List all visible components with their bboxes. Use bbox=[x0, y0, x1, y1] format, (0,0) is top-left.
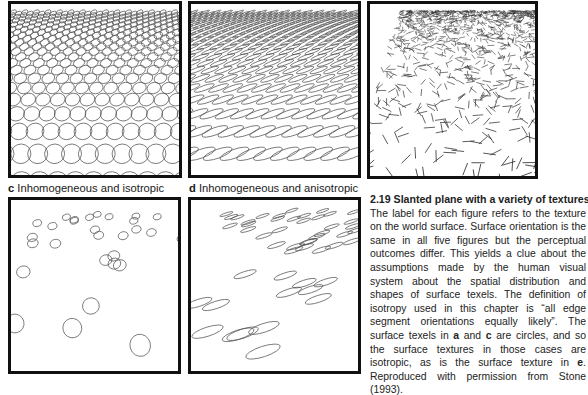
texture-line-segments-image bbox=[370, 4, 535, 176]
panel-d-label: d Inhomogeneous and anisotropic bbox=[189, 182, 358, 195]
panel-d-letter: d bbox=[189, 182, 196, 194]
texture-circles-image bbox=[11, 4, 179, 175]
caption-and: and bbox=[459, 330, 486, 341]
panel-d-inhomogeneous-anisotropic bbox=[188, 197, 361, 374]
panel-c-label-text: Inhomogeneous and isotropic bbox=[17, 182, 164, 194]
figure-number: 2.19 bbox=[370, 193, 391, 205]
figure-title: Slanted plane with a variety of textures bbox=[394, 193, 588, 205]
panel-c-label: c Inhomogeneous and isotropic bbox=[8, 182, 164, 195]
panel-a-homogeneous-circles bbox=[8, 1, 182, 178]
caption-body-1: The label for each figure refers to the … bbox=[370, 208, 586, 341]
caption-title: 2.19 Slanted plane with a variety of tex… bbox=[370, 193, 586, 207]
panel-d-label-text: Inhomogeneous and anisotropic bbox=[199, 182, 358, 194]
figure-caption: 2.19 Slanted plane with a variety of tex… bbox=[370, 193, 586, 395]
panel-c-letter: c bbox=[8, 182, 14, 194]
panel-e-line-segments bbox=[367, 1, 538, 179]
panel-b-homogeneous-ellipses bbox=[188, 1, 361, 178]
texture-sparse-circles-image bbox=[11, 200, 178, 371]
texture-sparse-ellipses-image bbox=[191, 200, 358, 371]
panel-c-inhomogeneous-isotropic bbox=[8, 197, 181, 374]
texture-ellipses-image bbox=[191, 4, 358, 175]
